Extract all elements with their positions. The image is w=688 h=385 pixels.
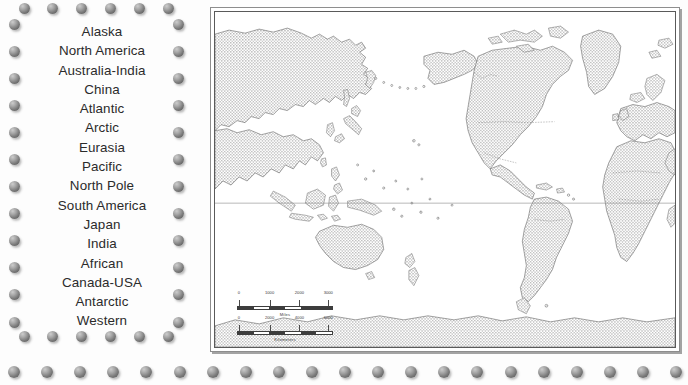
scalebar-kilometers-ticks bbox=[237, 323, 333, 331]
sphere-bead-icon bbox=[173, 235, 184, 246]
scale-tick-label: 2000 bbox=[295, 290, 304, 295]
sphere-bead-icon bbox=[105, 3, 116, 14]
sphere-bead-icon bbox=[74, 366, 86, 378]
scale-tick-label: 0 bbox=[238, 315, 240, 320]
sphere-bead-icon bbox=[173, 127, 184, 138]
sphere-bead-icon bbox=[9, 127, 20, 138]
scalebar-miles-bar bbox=[237, 306, 333, 310]
scale-tick-label: 0 bbox=[238, 290, 240, 295]
sphere-bead-icon bbox=[105, 331, 116, 342]
sphere-bead-icon bbox=[9, 100, 20, 111]
sphere-bead-icon bbox=[173, 289, 184, 300]
sphere-bead-icon bbox=[637, 366, 649, 378]
sphere-bead-icon bbox=[372, 366, 384, 378]
sphere-bead-icon bbox=[173, 73, 184, 84]
sphere-bead-icon bbox=[173, 262, 184, 273]
scale-tick-label: 4000 bbox=[295, 315, 304, 320]
sphere-bead-icon bbox=[339, 366, 351, 378]
sphere-bead-icon bbox=[9, 19, 20, 30]
sphere-bead-icon bbox=[76, 331, 87, 342]
page-root: Alaska North America Australia-India Chi… bbox=[0, 0, 688, 385]
sphere-bead-icon bbox=[306, 366, 318, 378]
sphere-bead-icon bbox=[163, 331, 174, 342]
sphere-bead-icon bbox=[19, 3, 30, 14]
sphere-bead-icon bbox=[571, 366, 583, 378]
sphere-bead-icon bbox=[9, 235, 20, 246]
sphere-bead-icon bbox=[19, 331, 30, 342]
sphere-bead-icon bbox=[505, 366, 517, 378]
sphere-bead-icon bbox=[8, 366, 20, 378]
scale-tick-label: 6000 bbox=[324, 315, 333, 320]
sphere-bead-icon bbox=[9, 73, 20, 84]
scalebar-kilometers-caption: Kilometers bbox=[237, 337, 333, 343]
sphere-bead-icon bbox=[173, 317, 184, 328]
scalebar-kilometers-labels: 0 2000 4000 6000 bbox=[237, 315, 333, 323]
sphere-bead-icon bbox=[173, 181, 184, 192]
sphere-bead-icon bbox=[471, 366, 483, 378]
sphere-bead-icon bbox=[438, 366, 450, 378]
sphere-bead-icon bbox=[173, 154, 184, 165]
scale-tick-label: 2000 bbox=[265, 315, 274, 320]
world-map-panel[interactable]: 0 1000 2000 3000 Miles bbox=[210, 7, 680, 352]
sphere-bead-icon bbox=[47, 3, 58, 14]
sphere-bead-icon bbox=[174, 366, 186, 378]
sphere-bead-icon bbox=[134, 331, 145, 342]
scalebar-kilometers: 0 2000 4000 6000 Kilometers bbox=[237, 315, 333, 343]
bottom-bead-decoration bbox=[0, 358, 688, 385]
sphere-bead-icon bbox=[670, 366, 682, 378]
sphere-bead-icon bbox=[9, 289, 20, 300]
bead-border-decoration bbox=[0, 0, 204, 352]
regions-panel: Alaska North America Australia-India Chi… bbox=[0, 0, 204, 352]
sphere-bead-icon bbox=[240, 366, 252, 378]
sphere-bead-icon bbox=[173, 208, 184, 219]
sphere-bead-icon bbox=[134, 3, 145, 14]
scalebar-miles-ticks bbox=[237, 298, 333, 306]
scalebar-miles-labels: 0 1000 2000 3000 bbox=[237, 290, 333, 298]
sphere-bead-icon bbox=[604, 366, 616, 378]
sphere-bead-icon bbox=[9, 46, 20, 57]
sphere-bead-icon bbox=[76, 3, 87, 14]
scale-tick-label: 1000 bbox=[265, 290, 274, 295]
sphere-bead-icon bbox=[163, 3, 174, 14]
sphere-bead-icon bbox=[41, 366, 53, 378]
sphere-bead-icon bbox=[538, 366, 550, 378]
scalebar-miles: 0 1000 2000 3000 Miles bbox=[237, 290, 333, 318]
sphere-bead-icon bbox=[9, 181, 20, 192]
sphere-bead-icon bbox=[173, 100, 184, 111]
sphere-bead-icon bbox=[107, 366, 119, 378]
sphere-bead-icon bbox=[9, 154, 20, 165]
map-canvas[interactable]: 0 1000 2000 3000 Miles bbox=[215, 12, 675, 347]
sphere-bead-icon bbox=[173, 46, 184, 57]
sphere-bead-icon bbox=[9, 317, 20, 328]
sphere-bead-icon bbox=[9, 262, 20, 273]
sphere-bead-icon bbox=[9, 208, 20, 219]
sphere-bead-icon bbox=[207, 366, 219, 378]
sphere-bead-icon bbox=[273, 366, 285, 378]
sphere-bead-icon bbox=[140, 366, 152, 378]
map-frame: 0 1000 2000 3000 Miles bbox=[214, 11, 676, 348]
scalebar-kilometers-bar bbox=[237, 331, 333, 335]
scale-tick-label: 3000 bbox=[324, 290, 333, 295]
sphere-bead-icon bbox=[405, 366, 417, 378]
sphere-bead-icon bbox=[47, 331, 58, 342]
sphere-bead-icon bbox=[173, 19, 184, 30]
